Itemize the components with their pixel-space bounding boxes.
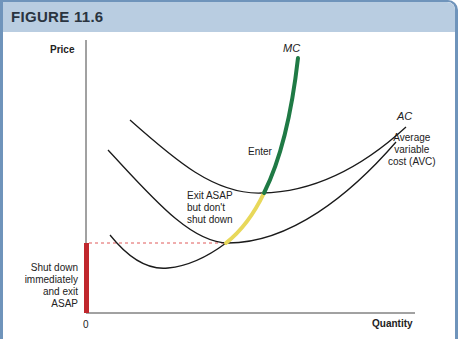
shutdown-label-line3: and exit — [14, 286, 78, 298]
enter-region-label: Enter — [248, 146, 272, 158]
shutdown-region-label: Shut down immediately and exit ASAP — [14, 262, 78, 310]
shutdown-label-line1: Shut down — [14, 262, 78, 274]
mc-curve-enter-segment — [264, 58, 298, 193]
mc-label: MC — [283, 42, 300, 54]
exit-label-line3: shut down — [187, 214, 233, 226]
y-axis-label: Price — [50, 44, 74, 56]
origin-label: 0 — [83, 319, 89, 331]
avc-label: Average variable cost (AVC) — [388, 132, 436, 168]
avc-label-line2: variable — [388, 144, 436, 156]
shutdown-label-line2: immediately — [14, 274, 78, 286]
ac-label: AC — [397, 110, 412, 122]
exit-label-line2: but don't — [187, 202, 233, 214]
mc-curve-lower — [110, 235, 226, 268]
shutdown-region-bar — [84, 243, 89, 313]
shutdown-label-line4: ASAP — [14, 298, 78, 310]
avc-label-line3: cost (AVC) — [388, 156, 436, 168]
avc-label-line1: Average — [388, 132, 436, 144]
exit-region-label: Exit ASAP but don't shut down — [187, 190, 233, 226]
x-axis-label: Quantity — [372, 318, 413, 330]
exit-label-line1: Exit ASAP — [187, 190, 233, 202]
